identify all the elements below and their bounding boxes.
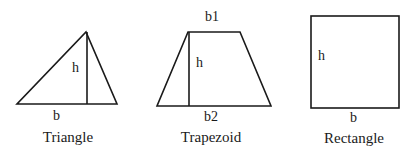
rectangle-base-label: b	[350, 110, 357, 125]
trapezoid-caption: Trapezoid	[181, 129, 242, 145]
triangle-height-label: h	[72, 60, 79, 75]
trapezoid-shape	[157, 32, 271, 106]
trapezoid-height-label: h	[196, 55, 203, 70]
trapezoid-figure: b1 h b2 Trapezoid	[157, 9, 271, 145]
trapezoid-top-base-label: b1	[205, 9, 219, 24]
triangle-figure: h b Triangle	[17, 32, 117, 145]
rectangle-figure: h b Rectangle	[311, 16, 399, 146]
rectangle-height-label: h	[318, 48, 325, 63]
geometry-shapes-diagram: h b Triangle b1 h b2 Trapezoid h b Recta…	[0, 0, 413, 156]
triangle-base-label: b	[53, 108, 60, 123]
rectangle-caption: Rectangle	[324, 130, 384, 146]
triangle-caption: Triangle	[43, 129, 94, 145]
triangle-shape	[17, 32, 117, 104]
trapezoid-bottom-base-label: b2	[204, 109, 218, 124]
